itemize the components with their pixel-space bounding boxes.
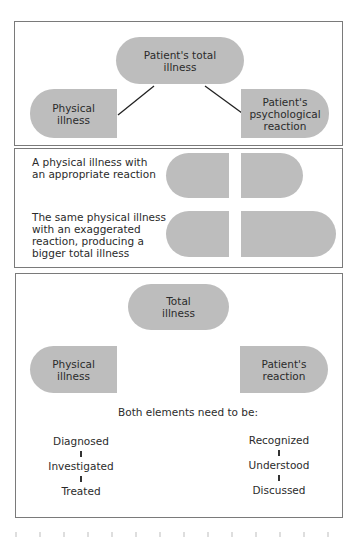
step-diagnosed: Diagnosed — [31, 435, 131, 447]
node-patients-reaction: Patient's reaction — [240, 346, 328, 393]
step-discussed: Discussed — [229, 484, 329, 496]
node-label: Patient's total illness — [144, 49, 216, 73]
cropped-text-fragment — [15, 532, 345, 537]
node-patients-total-illness: Patient's total illness — [116, 37, 244, 84]
bar-reaction-appropriate — [241, 153, 303, 198]
node-label: Patient's psychological reaction — [249, 96, 320, 132]
bar-physical-illness-2 — [166, 211, 229, 257]
node-physical-illness: Physical illness — [30, 89, 117, 138]
step-investigated: Investigated — [31, 460, 131, 472]
both-elements-text: Both elements need to be: — [118, 406, 258, 418]
step-recognized: Recognized — [229, 434, 329, 446]
node-label: Total illness — [162, 295, 195, 319]
node-label: Physical illness — [52, 358, 95, 382]
bar-reaction-exaggerated — [241, 211, 336, 257]
step-understood: Understood — [229, 459, 329, 471]
bar-physical-illness-1 — [166, 153, 229, 198]
node-label: Patient's reaction — [262, 358, 307, 382]
caption-appropriate-reaction: A physical illness with an appropriate r… — [32, 156, 156, 180]
step-treated: Treated — [31, 485, 131, 497]
step-connector — [278, 475, 280, 481]
step-connector — [80, 476, 82, 482]
node-psychological-reaction: Patient's psychological reaction — [241, 89, 329, 138]
step-connector — [80, 451, 82, 457]
node-label: Physical illness — [52, 102, 95, 126]
step-connector — [278, 450, 280, 456]
node-total-illness: Total illness — [128, 284, 229, 330]
caption-exaggerated-reaction: The same physical illness with an exagge… — [32, 211, 166, 259]
node-physical-illness-2: Physical illness — [30, 346, 117, 393]
